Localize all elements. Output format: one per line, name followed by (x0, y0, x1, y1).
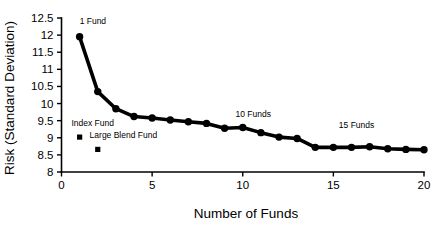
y-tick-label: 10.5 (31, 80, 53, 92)
10-funds-annotation: 10 Funds (236, 109, 271, 119)
y-tick-label: 10 (41, 98, 54, 110)
data-point (167, 116, 174, 123)
data-point (312, 144, 319, 151)
x-tick-label: 10 (236, 179, 249, 191)
x-tick-label: 5 (149, 179, 155, 191)
data-point (112, 105, 119, 112)
data-point (148, 114, 155, 121)
data-point (185, 118, 192, 125)
data-point (293, 135, 300, 142)
x-tick-label: 20 (418, 179, 431, 191)
x-tick-label: 0 (58, 179, 64, 191)
data-point (94, 88, 101, 95)
data-point (76, 33, 83, 40)
data-point (257, 129, 264, 136)
chart-canvas: 88.599.51010.51111.51212.5 05101520 1 Fu… (0, 0, 435, 226)
x-axis-title: Number of Funds (194, 206, 299, 221)
x-axis-tick-labels: 05101520 (58, 179, 430, 191)
data-point (384, 145, 391, 152)
data-point (130, 113, 137, 120)
index-fund-annotation-marker (77, 134, 82, 139)
y-axis-tick-labels: 88.599.51010.51111.51212.5 (31, 12, 53, 178)
y-tick-label: 8.5 (38, 149, 54, 161)
data-point (330, 144, 337, 151)
index-fund-annotation: Index Fund (71, 118, 114, 128)
data-point (420, 146, 427, 153)
y-tick-label: 12.5 (31, 12, 53, 24)
15-funds-annotation: 15 Funds (339, 120, 374, 130)
y-tick-label: 9.5 (38, 115, 54, 127)
chart-annotations: 1 FundIndex FundLarge Blend Fund10 Funds… (71, 16, 374, 152)
data-point (221, 124, 228, 131)
large-blend-fund-annotation: Large Blend Fund (90, 130, 158, 140)
y-tick-label: 8 (47, 166, 53, 178)
data-point (402, 146, 409, 153)
data-point (348, 144, 355, 151)
y-tick-label: 12 (41, 29, 54, 41)
data-point (366, 143, 373, 150)
data-point (203, 120, 210, 127)
y-axis-title: Risk (Standard Deviation) (2, 21, 17, 175)
large-blend-fund-annotation-marker (95, 147, 100, 152)
y-tick-label: 9 (47, 132, 53, 144)
data-point (239, 124, 246, 131)
y-tick-label: 11.5 (32, 46, 54, 58)
x-tick-label: 15 (327, 179, 340, 191)
y-tick-label: 11 (42, 63, 54, 75)
1-fund-annotation: 1 Fund (80, 16, 107, 26)
data-point (275, 133, 282, 140)
risk-vs-number-of-funds-chart: 88.599.51010.51111.51212.5 05101520 1 Fu… (0, 0, 435, 226)
